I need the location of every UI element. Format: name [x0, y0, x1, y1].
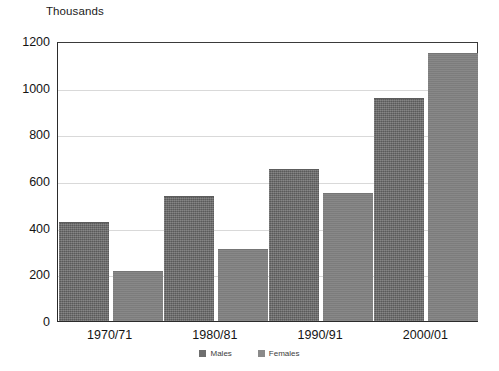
bars-group: [58, 43, 477, 321]
legend-swatch-females: [258, 350, 265, 357]
legend-label: Females: [269, 349, 300, 358]
bar-males-1980-81: [164, 196, 214, 321]
x-axis-tick-label: 2000/01: [403, 328, 448, 342]
x-axis-tick-label: 1980/81: [192, 328, 237, 342]
x-axis-tick-label: 1970/71: [87, 328, 132, 342]
bar-females-1970-71: [113, 271, 163, 321]
legend-item-males[interactable]: Males: [199, 349, 231, 358]
bar-chart: Thousands 020040060080010001200 1970/711…: [0, 0, 499, 371]
plot-area: [57, 42, 478, 322]
bar-males-2000-01: [374, 98, 424, 321]
x-axis-tick-label: 1990/91: [298, 328, 343, 342]
y-axis-tick-label: 600: [6, 175, 50, 189]
chart-legend: MalesFemales: [0, 349, 499, 358]
legend-label: Males: [210, 349, 231, 358]
bar-males-1990-91: [269, 169, 319, 321]
bar-females-2000-01: [428, 53, 478, 321]
y-axis: 020040060080010001200: [0, 42, 50, 322]
legend-item-females[interactable]: Females: [258, 349, 300, 358]
y-axis-tick-label: 0: [6, 315, 50, 329]
y-axis-unit-caption: Thousands: [46, 5, 104, 17]
y-axis-tick-label: 1200: [6, 35, 50, 49]
y-axis-tick-label: 1000: [6, 82, 50, 96]
y-axis-tick-label: 400: [6, 222, 50, 236]
bar-females-1980-81: [218, 249, 268, 321]
legend-swatch-males: [199, 350, 206, 357]
x-axis: 1970/711980/811990/912000/01: [57, 324, 478, 346]
bar-males-1970-71: [59, 222, 109, 321]
bar-females-1990-91: [323, 193, 373, 321]
y-axis-tick-label: 800: [6, 128, 50, 142]
y-axis-tick-label: 200: [6, 268, 50, 282]
